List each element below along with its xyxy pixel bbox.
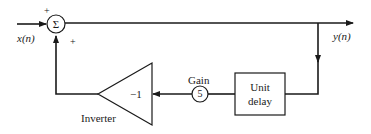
summer-symbol: Σ [47, 18, 65, 30]
inverter-value: −1 [130, 88, 142, 100]
summer-sign-top: + [44, 5, 50, 17]
summer-sign-bottom: + [70, 36, 76, 48]
output-label: y(n) [333, 30, 351, 42]
feedback-line [56, 36, 98, 94]
gain-title: Gain [188, 74, 209, 86]
input-label: x(n) [17, 32, 35, 44]
unit-delay-label-1: Unit [235, 81, 285, 93]
unit-delay-box [235, 73, 285, 115]
unit-delay-label-2: delay [235, 95, 285, 107]
branch-to-delay-line [285, 60, 318, 94]
inverter-title: Inverter [81, 112, 116, 124]
gain-value: 5 [192, 88, 208, 100]
